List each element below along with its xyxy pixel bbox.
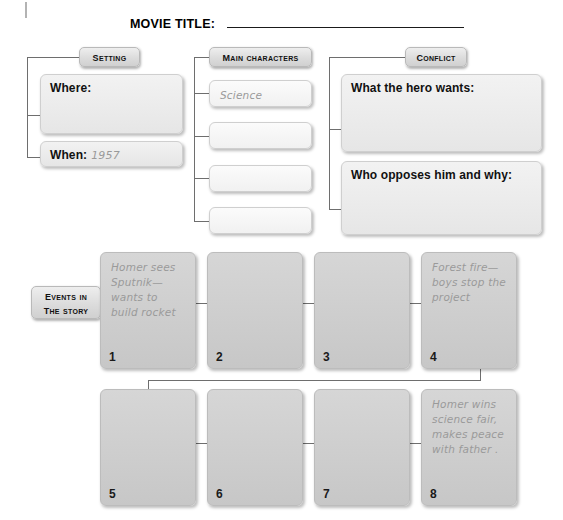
movie-title-input-rule[interactable]	[227, 27, 464, 28]
setting-when-label: When:1957	[50, 148, 120, 163]
setting-header-chip: Setting	[79, 47, 140, 67]
scan-artifact-mark	[25, 2, 27, 18]
characters-branch-3	[194, 178, 209, 179]
main-character-value-1: Science teacher	[220, 88, 303, 107]
characters-trunk-line	[194, 57, 195, 221]
event-wrap-across-line	[148, 380, 481, 381]
events-header-chip: Events in the story	[31, 286, 101, 319]
conflict-header-label: Conflict	[416, 50, 455, 64]
event-number-2: 2	[216, 350, 223, 364]
main-character-box-2[interactable]	[209, 122, 312, 149]
event-box-1[interactable]: Homer sees Sputnik— wants to build rocke…	[100, 252, 196, 369]
conflict-hero-wants-label: What the hero wants:	[351, 81, 474, 95]
setting-header-branch	[27, 57, 79, 58]
event-box-5[interactable]: 5	[100, 389, 196, 506]
setting-where-label: Where:	[50, 81, 91, 95]
setting-trunk-line	[27, 57, 28, 157]
conflict-opposes-label: Who opposes him and why:	[351, 168, 512, 182]
events-header-line2: the story	[44, 303, 89, 317]
main-character-box-1[interactable]: Science teacher	[209, 80, 312, 107]
characters-branch-2	[194, 136, 209, 137]
event-box-2[interactable]: 2	[207, 252, 303, 369]
event-box-6[interactable]: 6	[207, 389, 303, 506]
story-map-worksheet: MOVIE TITLE: Setting Where: When:1957 Ma…	[0, 0, 563, 520]
event-text-1: Homer sees Sputnik— wants to build rocke…	[111, 260, 187, 320]
main-characters-header-label: Main Characters	[223, 50, 299, 64]
main-characters-header-chip: Main Characters	[209, 47, 312, 67]
conflict-header-chip: Conflict	[405, 47, 467, 67]
main-character-box-4[interactable]	[209, 207, 312, 234]
event-box-4[interactable]: Forest fire— boys stop the project 4	[421, 252, 517, 369]
event-text-4: Forest fire— boys stop the project	[432, 260, 508, 305]
characters-branch-1	[194, 93, 209, 94]
characters-header-branch	[194, 57, 209, 58]
setting-header-label: Setting	[93, 50, 127, 64]
event-number-5: 5	[109, 487, 116, 501]
events-header-line1: Events in	[45, 289, 87, 303]
setting-when-value: 1957	[91, 149, 120, 162]
conflict-trunk-line	[329, 57, 330, 209]
conflict-hero-wants-box[interactable]: What the hero wants:	[341, 74, 542, 152]
setting-when-box[interactable]: When:1957	[40, 141, 183, 167]
conflict-opposes-box[interactable]: Who opposes him and why:	[341, 161, 542, 235]
event-box-7[interactable]: 7	[314, 389, 410, 506]
event-text-8: Homer wins science fair, makes peace wit…	[432, 397, 508, 457]
characters-branch-4	[194, 221, 209, 222]
event-box-8[interactable]: Homer wins science fair, makes peace wit…	[421, 389, 517, 506]
event-number-3: 3	[323, 350, 330, 364]
event-box-3[interactable]: 3	[314, 252, 410, 369]
event-number-4: 4	[430, 350, 437, 364]
event-number-7: 7	[323, 487, 330, 501]
event-number-1: 1	[109, 350, 116, 364]
setting-where-box[interactable]: Where:	[40, 74, 183, 134]
main-character-box-3[interactable]	[209, 165, 312, 192]
movie-title-row: MOVIE TITLE:	[130, 17, 464, 31]
conflict-header-branch	[329, 57, 405, 58]
movie-title-label: MOVIE TITLE:	[130, 17, 215, 31]
event-number-6: 6	[216, 487, 223, 501]
event-number-8: 8	[430, 487, 437, 501]
